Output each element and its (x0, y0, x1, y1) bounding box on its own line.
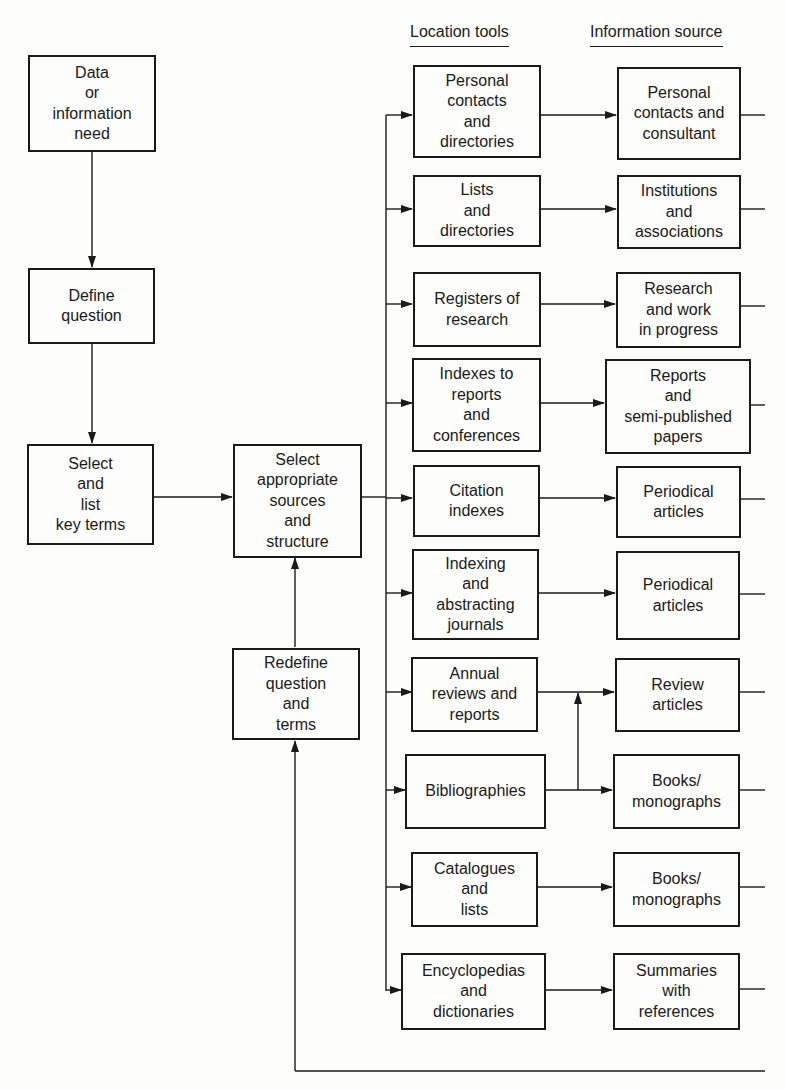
source-review-articles: Review articles (615, 658, 740, 732)
tool-citation-indexes: Citation indexes (413, 465, 540, 537)
header-information-source: Information source (590, 22, 723, 47)
source-periodical-articles-1: Periodical articles (616, 466, 741, 538)
source-summaries-references: Summaries with references (613, 953, 740, 1030)
tool-indexes-reports: Indexes to reports and conferences (412, 358, 541, 452)
tool-encyclopedias: Encyclopedias and dictionaries (401, 953, 546, 1030)
step-redefine-question: Redefine question and terms (232, 648, 360, 740)
tool-registers-research: Registers of research (413, 272, 541, 347)
source-books-monographs-2: Books/ monographs (613, 852, 740, 927)
tool-catalogues-lists: Catalogues and lists (411, 852, 538, 927)
source-reports-papers: Reports and semi-published papers (605, 359, 751, 454)
tool-annual-reviews: Annual reviews and reports (411, 657, 538, 732)
header-location-tools: Location tools (410, 22, 509, 47)
tool-personal-contacts: Personal contacts and directories (413, 65, 541, 158)
source-personal-contacts: Personal contacts and consultant (617, 67, 741, 160)
source-periodical-articles-2: Periodical articles (616, 551, 740, 640)
step-select-sources: Select appropriate sources and structure (233, 444, 362, 558)
information-search-flowchart: Location tools Information source Data o… (0, 0, 785, 1089)
step-define-question: Define question (28, 268, 155, 344)
tool-bibliographies: Bibliographies (405, 754, 546, 829)
tool-lists-directories: Lists and directories (413, 175, 541, 247)
tool-indexing-abstracting: Indexing and abstracting journals (412, 549, 539, 640)
source-research-progress: Research and work in progress (616, 272, 741, 348)
source-institutions: Institutions and associations (617, 175, 741, 249)
step-select-key-terms: Select and list key terms (27, 444, 154, 545)
source-books-monographs-1: Books/ monographs (613, 754, 740, 829)
step-information-need: Data or information need (28, 55, 156, 152)
